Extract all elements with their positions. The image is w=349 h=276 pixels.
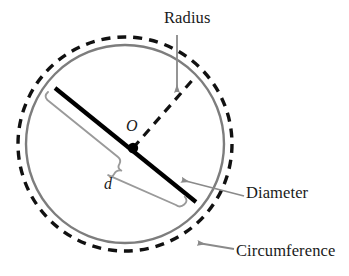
diameter-symbol-label: d: [104, 176, 112, 192]
radius-dashed-line: [133, 76, 196, 148]
center-point-dot: [128, 143, 138, 153]
radius-label: Radius: [164, 10, 210, 27]
circumference-leader-line: [198, 243, 234, 249]
diameter-label: Diameter: [246, 185, 308, 202]
circumference-label: Circumference: [236, 243, 335, 260]
diameter-line: [55, 88, 196, 202]
diameter-leader-line: [182, 180, 244, 196]
center-point-label: O: [126, 118, 138, 134]
circle-parts-diagram: Radius Diameter Circumference O d: [0, 0, 349, 276]
diagram-canvas: [0, 0, 349, 276]
